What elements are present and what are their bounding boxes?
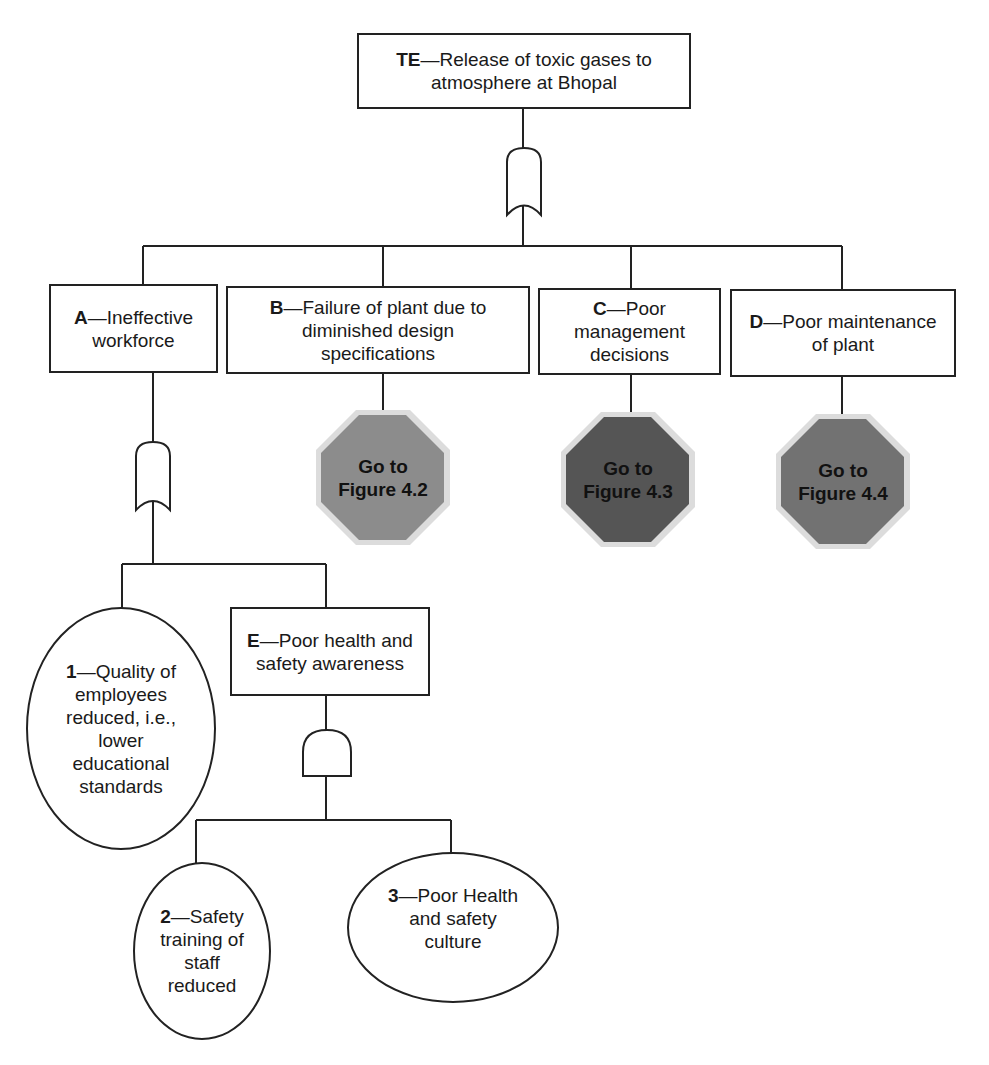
event-d-box: D—Poor maintenance of plant [730,289,956,377]
event-code: D [750,311,764,332]
or-gate-icon [136,442,170,510]
basic-event-2: 2—Safety training of staff reduced [133,862,271,1040]
event-code: TE [396,49,420,70]
transfer-label-d[interactable]: Go to Figure 4.4 [776,414,910,549]
event-code: 3 [388,885,399,906]
event-text: —Failure of plant due to diminished desi… [283,297,486,364]
event-code: E [247,630,260,651]
event-text: —Quality of employees reduced, i.e., low… [66,661,176,797]
transfer-line: Go to [818,459,868,482]
event-code: B [270,297,284,318]
event-text: —Poor health and safety awareness [256,630,413,674]
transfer-line: Figure 4.2 [338,478,428,501]
event-text: —Poor Health and safety culture [399,885,518,952]
basic-event-3: 3—Poor Health and safety culture [347,852,559,1003]
event-text: —Poor management decisions [574,298,685,365]
or-gate-icon [507,148,541,215]
event-text: —Release of toxic gases to [420,49,651,70]
transfer-line: Go to [603,457,653,480]
event-text: atmosphere at Bhopal [431,71,617,94]
transfer-line: Figure 4.3 [583,480,673,503]
and-gate-icon [303,730,351,776]
event-code: 1 [66,661,77,682]
event-a-box: A—Ineffective workforce [49,284,218,373]
event-text: —Poor maintenance of plant [763,311,936,355]
event-code: A [74,307,88,328]
transfer-label-c[interactable]: Go to Figure 4.3 [561,412,695,547]
event-b-box: B—Failure of plant due to diminished des… [226,286,530,374]
basic-event-1: 1—Quality of employees reduced, i.e., lo… [26,607,216,850]
event-text: —Safety training of staff reduced [160,906,243,996]
transfer-line: Go to [358,455,408,478]
event-e-box: E—Poor health and safety awareness [230,607,430,696]
event-text: —Ineffective workforce [88,307,193,351]
transfer-line: Figure 4.4 [798,482,888,505]
event-code: C [593,298,607,319]
event-c-box: C—Poor management decisions [538,288,721,375]
transfer-label-b[interactable]: Go to Figure 4.2 [316,410,450,545]
top-event-box: TE—Release of toxic gases to atmosphere … [357,33,691,109]
event-code: 2 [160,906,171,927]
